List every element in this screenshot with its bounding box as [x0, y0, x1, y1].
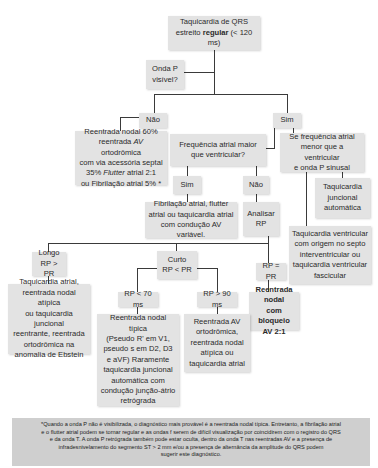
branch-yes-p-wave: Sim: [273, 113, 301, 128]
ventricular-tachycardia-septal: Taquicardia ventricular com origem no se…: [289, 226, 371, 284]
branch-freq-no: Não: [243, 176, 269, 194]
connector: [214, 50, 215, 94]
connector: [48, 243, 269, 244]
connector: [176, 243, 177, 251]
rp-greater-90ms: RP > 90 ms: [197, 292, 237, 307]
branch-no-p-wave: Não: [139, 113, 167, 128]
question-p-wave-visible: Onda P visível?: [146, 60, 184, 89]
sinus-condition: Se frequência atrial menor que a ventric…: [280, 133, 364, 172]
analyze-rp: Analisar RP: [243, 202, 279, 236]
connector: [256, 166, 257, 176]
start-node-narrow-qrs-tachycardia: Taquicardia de QRS estreito regular (< 1…: [168, 16, 260, 50]
rp-long: Longo RP > PR: [32, 252, 66, 276]
rp-less-70ms: RP < 70 ms: [118, 292, 158, 307]
rp-long-result: Taquicardia atrial, reentrada nodal atíp…: [8, 284, 90, 354]
connector: [154, 94, 287, 95]
footnote: *Quando a onda P não é visibilizada, o d…: [12, 418, 370, 466]
connector: [268, 243, 269, 263]
rp-equal: RP = PR: [256, 263, 286, 280]
connector: [184, 72, 214, 73]
rp-equal-result: Reentrada nodal com bloqueio AV 2:1: [249, 292, 299, 330]
af-flutter-variable-conduction: Fibrilação atrial, flutter atrial ou taq…: [145, 202, 237, 238]
connector: [287, 94, 288, 114]
connector: [256, 194, 257, 202]
connector: [154, 94, 155, 114]
branch-freq-yes: Sim: [173, 176, 201, 194]
junctional-automatic-tachycardia: Taquicardia juncional automática: [315, 178, 370, 218]
connector: [137, 268, 157, 269]
no-p-wave-result: Reentrada nodal 60% reentrada AV ortodrô…: [75, 131, 167, 185]
connector: [120, 117, 139, 118]
connector: [187, 166, 188, 176]
connector: [274, 134, 275, 149]
rp-greater-90-result: Reentrada AV ortodrômica, reentrada noda…: [184, 314, 250, 372]
rp-less-70-result: Reentrada nodal típica (Pseudo R' em V1,…: [97, 314, 179, 406]
rp-short: Curto RP < PR: [157, 251, 197, 279]
connector: [197, 268, 217, 269]
question-atrial-rate-greater: Frequência atrial maior que ventricular?: [170, 134, 266, 166]
